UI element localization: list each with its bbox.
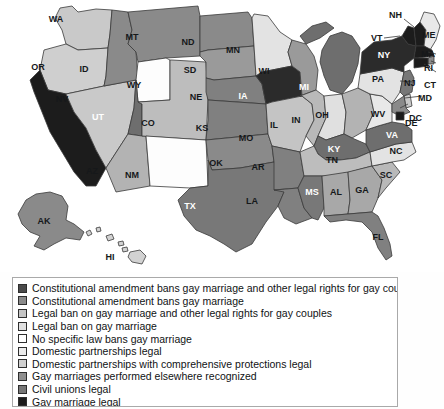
legend-label-7: Gay marriages performed elsewhere recogn… [32, 370, 257, 382]
leader-NH [404, 19, 414, 27]
state-label-CT: CT [424, 80, 436, 90]
state-label-AZ: AZ [86, 166, 98, 176]
state-label-CO: CO [141, 118, 155, 128]
state-label-AL: AL [330, 187, 342, 197]
state-label-ID: ID [80, 64, 90, 74]
state-label-MN: MN [226, 45, 240, 55]
state-label-MO: MO [239, 133, 254, 143]
legend-swatch-icon-5 [18, 347, 27, 356]
state-label-CA: CA [24, 124, 37, 134]
state-label-HI: HI [106, 252, 115, 262]
state-MT[interactable] [128, 6, 200, 62]
legend-item-4[interactable]: No specific law bans gay marriage [18, 332, 397, 345]
state-label-MT: MT [126, 32, 139, 42]
state-label-KS: KS [196, 123, 209, 133]
state-label-WY: WY [127, 80, 142, 90]
legend-swatch-icon-2 [18, 309, 27, 318]
state-label-SC: SC [380, 170, 393, 180]
state-DC-marker[interactable] [396, 112, 404, 120]
state-label-DC: DC [409, 113, 422, 123]
legend-item-8[interactable]: Civil unions legal [18, 383, 397, 396]
state-label-VA: VA [386, 130, 398, 140]
legend-label-3: Legal ban on gay marriage [32, 320, 157, 332]
legend-swatch-icon-4 [18, 334, 27, 343]
legend-label-4: No specific law bans gay marriage [32, 333, 192, 345]
state-label-VT: VT [371, 33, 383, 43]
legend-item-6[interactable]: Domestic partnerships with comprehensive… [18, 358, 397, 371]
legend-item-9[interactable]: Gay marriage legal [18, 395, 397, 407]
state-label-ME: ME [422, 30, 436, 40]
state-label-OR: OR [31, 62, 45, 72]
state-label-AK: AK [38, 216, 51, 226]
state-label-NJ: NJ [404, 78, 416, 88]
legend-item-0[interactable]: Constitutional amendment bans gay marria… [18, 282, 397, 295]
state-AK[interactable] [18, 192, 84, 250]
state-label-TN: TN [326, 155, 338, 165]
state-label-ND: ND [182, 37, 195, 47]
state-label-MA: MA [421, 49, 435, 59]
legend-label-0: Constitutional amendment bans gay marria… [32, 282, 398, 294]
legend-item-7[interactable]: Gay marriages performed elsewhere recogn… [18, 370, 397, 383]
gay-marriage-laws-map-figure: WA OR CA NV ID MT WY UT AZ CO NM ND SD N… [0, 0, 444, 409]
legend-swatch-icon-7 [18, 372, 27, 381]
state-OR[interactable] [40, 44, 108, 94]
state-label-OH: OH [315, 110, 329, 120]
us-map-svg: WA OR CA NV ID MT WY UT AZ CO NM ND SD N… [0, 0, 444, 272]
state-label-NV: NV [56, 94, 69, 104]
legend-label-9: Gay marriage legal [32, 396, 121, 407]
legend-item-3[interactable]: Legal ban on gay marriage [18, 320, 397, 333]
legend-swatch-icon-9 [18, 397, 27, 406]
state-label-NE: NE [190, 92, 203, 102]
state-label-FL: FL [373, 232, 384, 242]
state-label-MI: MI [299, 82, 309, 92]
legend-swatch-icon-8 [18, 385, 27, 394]
legend-label-5: Domestic partnerships legal [32, 345, 162, 357]
legend-label-8: Civil unions legal [32, 383, 111, 395]
state-label-WV: WV [371, 109, 386, 119]
state-label-NC: NC [390, 146, 403, 156]
legend-item-2[interactable]: Legal ban on gay marriage and other lega… [18, 307, 397, 320]
legend-label-6: Domestic partnerships with comprehensive… [32, 358, 312, 370]
legend-swatch-icon-6 [18, 359, 27, 368]
state-WA[interactable] [55, 6, 112, 50]
state-label-NY: NY [378, 50, 391, 60]
state-label-OK: OK [209, 158, 223, 168]
state-label-TX: TX [184, 201, 196, 211]
state-label-PA: PA [372, 74, 384, 84]
legend-item-5[interactable]: Domestic partnerships legal [18, 345, 397, 358]
us-map: WA OR CA NV ID MT WY UT AZ CO NM ND SD N… [0, 0, 444, 272]
state-label-MD: MD [418, 93, 432, 103]
state-label-SD: SD [184, 65, 197, 75]
state-label-RI: RI [424, 63, 433, 73]
legend-swatch-icon-0 [18, 284, 27, 293]
state-KS[interactable] [206, 100, 268, 140]
state-label-NH: NH [389, 10, 402, 20]
state-label-AR: AR [252, 162, 265, 172]
state-label-IL: IL [270, 120, 279, 130]
state-label-WA: WA [49, 14, 64, 24]
legend-label-1: Constitutional amendment bans gay marria… [32, 295, 244, 307]
state-label-KY: KY [328, 144, 341, 154]
state-label-WI: WI [259, 66, 270, 76]
state-AR[interactable] [272, 146, 304, 190]
state-label-GA: GA [355, 185, 369, 195]
state-NM[interactable] [146, 136, 208, 188]
state-label-UT: UT [92, 112, 104, 122]
state-label-LA: LA [246, 196, 258, 206]
legend-label-2: Legal ban on gay marriage and other lega… [32, 307, 332, 319]
legend-swatch-icon-3 [18, 322, 27, 331]
state-label-NM: NM [125, 170, 139, 180]
legend-swatch-icon-1 [18, 296, 27, 305]
state-HI[interactable] [86, 227, 146, 264]
state-NE[interactable] [206, 76, 266, 104]
state-label-IN: IN [292, 115, 301, 125]
legend-item-1[interactable]: Constitutional amendment bans gay marria… [18, 295, 397, 308]
state-label-MS: MS [305, 187, 319, 197]
state-label-IA: IA [239, 91, 249, 101]
map-legend: Constitutional amendment bans gay marria… [12, 277, 398, 407]
